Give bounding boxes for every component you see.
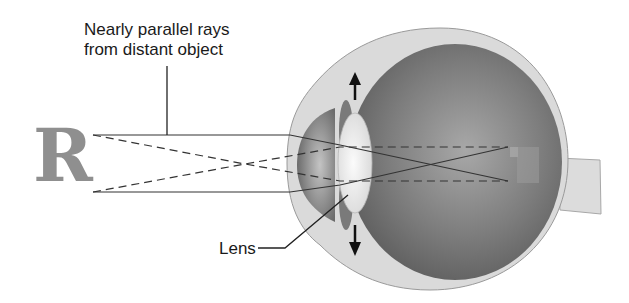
rays-label-line-1: Nearly parallel rays	[84, 20, 230, 40]
lens	[338, 113, 372, 213]
rays-label-line-2: from distant object	[84, 40, 230, 60]
distant-object-letter: R	[33, 116, 93, 196]
rays-label: Nearly parallel rays from distant object	[84, 20, 230, 60]
lens-label: Lens	[219, 239, 256, 259]
